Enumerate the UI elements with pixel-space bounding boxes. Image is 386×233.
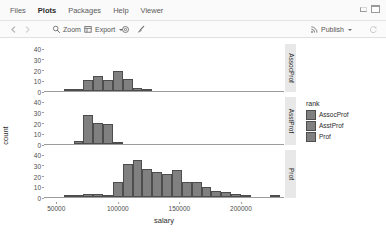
histogram-bar: [152, 172, 162, 197]
facet-strip-label: AsstProf: [285, 97, 296, 145]
histogram-bar: [113, 182, 123, 197]
facet-strip-text: AssocProf: [287, 53, 294, 83]
facet-strip-text: AsstProf: [287, 109, 294, 134]
legend-key-swatch: [306, 132, 316, 142]
y-axis-tick-label: 30: [34, 162, 44, 169]
facet-panel: 010203040: [44, 150, 284, 198]
x-axis-label: salary: [44, 216, 284, 225]
refresh-icon[interactable]: [369, 24, 378, 35]
publish-button[interactable]: Publish: [310, 24, 352, 35]
legend-entries: AssocProfAsstProfProf: [306, 109, 382, 142]
y-axis-tick-label: 0: [37, 142, 44, 149]
y-axis-label: count: [0, 38, 11, 233]
back-arrow-icon[interactable]: [9, 24, 18, 35]
histogram-bar: [172, 170, 182, 197]
x-axis-ticks: 50000100000150000200000: [44, 202, 284, 214]
chevron-down-icon: [348, 29, 352, 31]
export-button[interactable]: Export: [84, 24, 123, 35]
facet-strip-text: Prof: [287, 168, 294, 180]
legend-item: Prof: [306, 131, 382, 142]
histogram-bar: [133, 160, 143, 197]
histogram-bar: [93, 123, 103, 144]
legend-item: AsstProf: [306, 120, 382, 131]
legend-item-label: AssocProf: [319, 111, 349, 118]
tab-viewer[interactable]: Viewer: [135, 6, 170, 20]
export-icon: [84, 25, 93, 34]
facet-strip-label: AssocProf: [285, 44, 296, 92]
histogram-bar: [64, 89, 74, 91]
x-axis-tick-label: 100000: [107, 205, 129, 212]
broom-icon[interactable]: [137, 24, 146, 35]
histogram-bar: [74, 195, 84, 197]
x-axis-tick-label: 200000: [230, 205, 252, 212]
histogram-bar: [103, 195, 113, 197]
tab-packages[interactable]: Packages: [62, 6, 107, 20]
y-axis-tick-label: 10: [34, 184, 44, 191]
histogram-bar: [133, 88, 143, 91]
legend-key-swatch: [306, 121, 316, 131]
histogram-bar: [231, 194, 241, 197]
histogram-bar: [202, 187, 212, 197]
window-controls: [360, 5, 380, 13]
legend-title: rank: [306, 100, 382, 107]
histogram-bar: [162, 174, 172, 198]
export-label: Export: [95, 26, 115, 33]
gear-icon[interactable]: [121, 24, 130, 35]
x-axis-line: [44, 91, 284, 92]
histogram-bar: [192, 182, 202, 197]
y-axis-tick-label: 20: [34, 67, 44, 74]
histogram-bar: [221, 192, 231, 197]
histogram-bar: [142, 169, 152, 197]
y-axis-tick-label: 40: [34, 46, 44, 53]
plots-toolbar: Zoom Export: [0, 21, 386, 38]
y-axis-tick-label: 20: [34, 173, 44, 180]
histogram-bar: [64, 195, 74, 197]
x-axis-tick-label: 50000: [47, 205, 65, 212]
histogram-bar: [113, 142, 123, 144]
histogram-bar: [270, 195, 280, 197]
legend-item-label: AsstProf: [319, 122, 344, 129]
y-axis-tick-label: 30: [34, 109, 44, 116]
y-axis-tick-label: 0: [37, 195, 44, 202]
zoom-button[interactable]: Zoom: [52, 24, 81, 35]
x-axis-line: [44, 197, 284, 198]
y-axis-tick-label: 0: [37, 89, 44, 96]
histogram-bar: [211, 191, 221, 197]
x-axis-line: [44, 144, 284, 145]
y-axis-tick-label: 30: [34, 56, 44, 63]
facet-strip-label: Prof: [285, 150, 296, 198]
histogram-bar: [113, 71, 123, 91]
histogram-bar: [83, 194, 93, 197]
zoom-label: Zoom: [63, 26, 81, 33]
tab-files[interactable]: Files: [0, 6, 32, 20]
histogram-bar: [83, 115, 93, 144]
tab-help[interactable]: Help: [107, 6, 134, 20]
facet-panel: 010203040: [44, 97, 284, 145]
histogram-bar: [93, 76, 103, 91]
histogram-bar: [182, 182, 192, 197]
x-axis-tick-label: 150000: [169, 205, 191, 212]
histogram-bar: [74, 89, 84, 91]
plot-canvas: count 010203040AssocProf010203040AsstPro…: [0, 38, 386, 233]
histogram-bar: [83, 80, 93, 91]
publish-label: Publish: [321, 26, 344, 33]
tab-plots[interactable]: Plots: [32, 6, 62, 20]
histogram-bar: [93, 194, 103, 197]
y-axis-tick-label: 10: [34, 78, 44, 85]
legend: rank AssocProfAsstProfProf: [306, 100, 382, 142]
facet-panel: 010203040: [44, 44, 284, 92]
minimize-icon[interactable]: [360, 7, 367, 12]
legend-item-label: Prof: [319, 133, 331, 140]
histogram-bar: [241, 195, 251, 197]
histogram-bar: [74, 141, 84, 144]
magnifier-icon: [52, 25, 61, 34]
histogram-bar: [123, 79, 133, 91]
y-axis-tick-label: 20: [34, 120, 44, 127]
y-axis-tick-label: 10: [34, 131, 44, 138]
pane-tabbar: Files Plots Packages Help Viewer: [0, 0, 386, 21]
legend-key-swatch: [306, 110, 316, 120]
histogram-bar: [123, 164, 133, 197]
legend-item: AssocProf: [306, 109, 382, 120]
forward-arrow-icon[interactable]: [23, 24, 32, 35]
maximize-icon[interactable]: [371, 5, 380, 13]
